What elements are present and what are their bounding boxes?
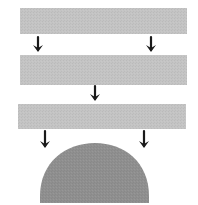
layer-2	[20, 55, 187, 85]
layer-1	[20, 8, 187, 34]
layer-3	[18, 104, 186, 129]
layer-flow-diagram	[0, 0, 198, 205]
